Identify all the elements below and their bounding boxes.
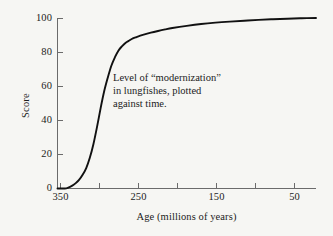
annotation-line-3: against time. (113, 97, 221, 110)
x-tick-label-50: 50 (274, 191, 315, 202)
chart-annotation: Level of “modernization” in lungfishes, … (113, 71, 221, 111)
y-tick-label-40: 40 (12, 114, 52, 125)
annotation-line-1: Level of “modernization” (113, 71, 221, 84)
x-tick-label-350: 350 (40, 191, 81, 202)
y-tick-label-100: 100 (12, 12, 52, 23)
annotation-line-2: in lungfishes, plotted (113, 84, 221, 97)
x-axis-label: Age (millions of years) (0, 211, 333, 222)
lungfish-modernization-figure: 100 80 60 40 20 0 350 250 150 50 Score A… (0, 0, 333, 236)
y-tick-label-20: 20 (12, 148, 52, 159)
x-axis-ticks (61, 183, 295, 189)
x-tick-label-250: 250 (118, 191, 159, 202)
x-tick-label-150: 150 (196, 191, 237, 202)
y-axis-label: Score (20, 93, 31, 118)
y-tick-label-60: 60 (12, 80, 52, 91)
y-axis-ticks (58, 19, 64, 189)
y-tick-label-80: 80 (12, 46, 52, 57)
